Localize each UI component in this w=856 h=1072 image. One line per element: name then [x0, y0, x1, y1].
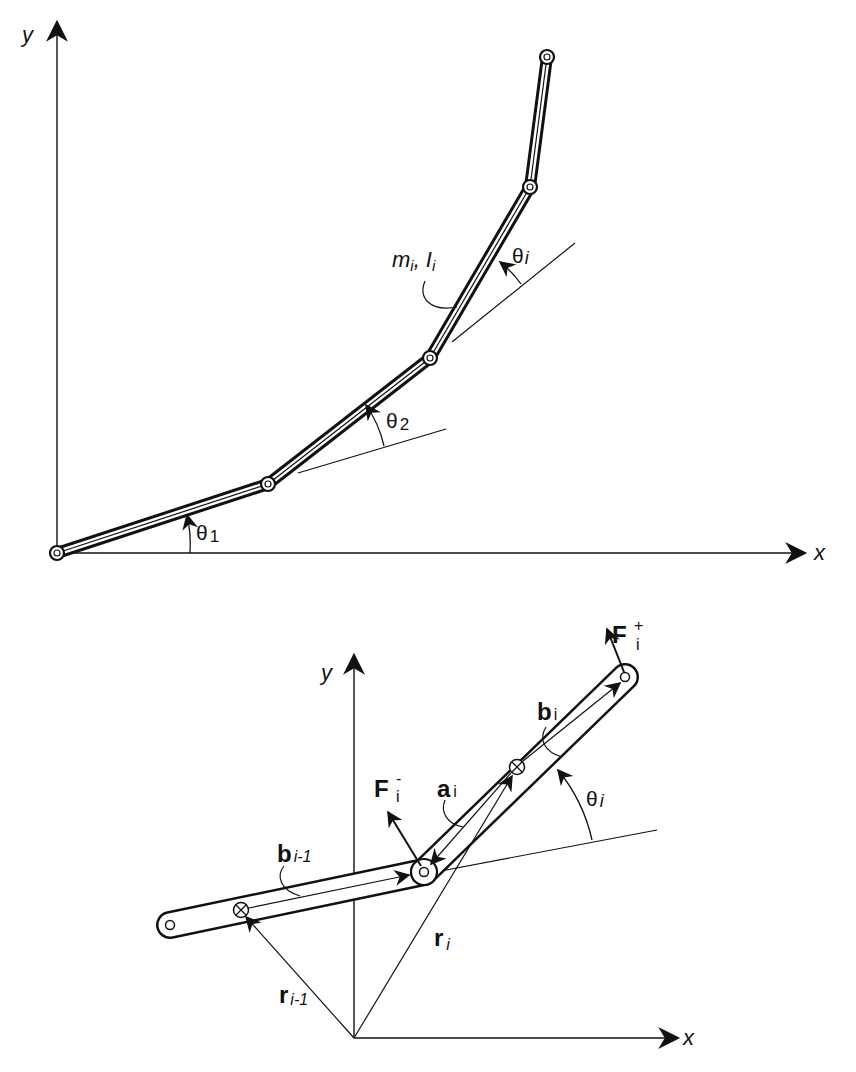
- f-plus-sup: +: [634, 617, 643, 634]
- link-i: [430, 187, 530, 358]
- f-minus-label: F: [374, 775, 389, 802]
- b-i-minus-1-label: bi-1: [277, 840, 311, 867]
- r-i-label: ri: [434, 924, 450, 953]
- theta-i-bottom-label: θi: [586, 787, 605, 811]
- com-marker-i: [510, 760, 525, 775]
- theta-1-label: θ1: [196, 521, 219, 546]
- com-marker-i-minus-1: [234, 903, 249, 918]
- link-1: [57, 484, 268, 553]
- bottom-x-axis-label: x: [682, 1025, 695, 1050]
- f-plus-label: F: [612, 621, 627, 648]
- force-f-i-minus: [388, 812, 421, 866]
- f-plus-sub: i: [636, 636, 640, 653]
- bottom-y-axis-label: y: [319, 660, 334, 685]
- diagram-svg: y x: [0, 0, 856, 1072]
- top-y-axis-label: y: [20, 22, 35, 47]
- mass-inertia-label: mi,Ii: [392, 247, 436, 274]
- theta-i-label: θi: [512, 244, 530, 268]
- joints: [50, 50, 554, 560]
- b-i-label: bi: [537, 698, 557, 725]
- a-i-label: ai: [437, 775, 457, 802]
- link-end: [530, 57, 547, 187]
- vector-r-i-minus-1: [246, 917, 354, 1038]
- multibody-link-diagram: y x: [0, 0, 856, 1072]
- link-i-bottom: [424, 673, 630, 873]
- bottom-diagram: y x: [166, 617, 696, 1050]
- theta-2-label: θ2: [386, 409, 409, 434]
- mass-leader-line: [423, 281, 457, 308]
- angle-arc-1: [187, 515, 190, 553]
- r-i-minus-1-label: ri-1: [279, 981, 308, 1008]
- f-minus-sub: i: [396, 788, 400, 805]
- f-minus-sup: -: [396, 770, 401, 787]
- top-x-axis-label: x: [813, 540, 826, 565]
- top-diagram: y x: [20, 22, 826, 565]
- vector-r-i: [354, 776, 512, 1038]
- link-i-minus-1: [166, 872, 425, 930]
